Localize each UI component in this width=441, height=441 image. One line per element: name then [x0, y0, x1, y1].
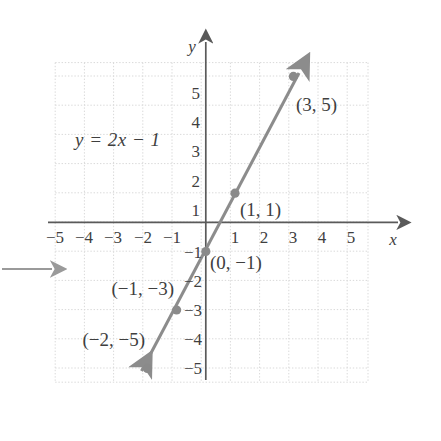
x-tick--5: −5 [46, 229, 64, 246]
equation-text: y = 2x − 1 [75, 129, 161, 150]
coordinate-plane-svg [0, 0, 441, 441]
x-axis-label: x [389, 231, 397, 248]
x-tick-1: 1 [231, 229, 240, 246]
y-tick-4: 4 [192, 114, 201, 131]
point-label-3-5: (3, 5) [296, 95, 337, 114]
y-axis-label: y [188, 38, 196, 55]
point-label-0--1: (0, −1) [210, 253, 262, 272]
x-tick--2: −2 [134, 229, 152, 246]
x-tick-5: 5 [347, 229, 356, 246]
y-tick--4: −4 [184, 331, 202, 348]
equation-annotation: y = 2x − 1 [75, 130, 161, 149]
point-label--1--3: (−1, −3) [111, 279, 174, 298]
y-tick--2: −2 [184, 273, 202, 290]
y-tick--1: −1 [184, 244, 202, 261]
point-1-1 [230, 189, 239, 198]
y-tick-5: 5 [192, 85, 201, 102]
graph-figure: y = 2x − 1 −5 −4 −3 −2 −1 1 2 3 4 5 5 4 … [0, 0, 441, 441]
x-tick--1: −1 [163, 229, 181, 246]
y-tick-3: 3 [192, 143, 201, 160]
y-tick-2: 2 [192, 173, 201, 190]
x-tick--4: −4 [75, 229, 93, 246]
point--2--5 [143, 364, 152, 373]
x-tick-3: 3 [289, 229, 298, 246]
y-tick--5: −5 [184, 360, 202, 377]
point-label--2--5: (−2, −5) [82, 330, 145, 349]
x-tick-2: 2 [260, 229, 269, 246]
y-tick--3: −3 [184, 302, 202, 319]
x-tick--3: −3 [104, 229, 122, 246]
point-label-1-1: (1, 1) [240, 200, 281, 219]
point--1--3 [172, 305, 181, 314]
x-tick-4: 4 [318, 229, 327, 246]
y-tick-1: 1 [192, 202, 201, 219]
point-3-5 [289, 72, 298, 81]
